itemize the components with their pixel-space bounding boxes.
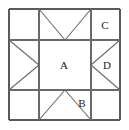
region-label-c: C (101, 19, 108, 31)
region-label-a: A (60, 59, 68, 71)
quilt-block-diagram: A B C D (0, 0, 129, 130)
quilt-block-figure: A B C D (0, 0, 129, 130)
region-label-b: B (78, 97, 85, 109)
region-label-d: D (103, 59, 111, 71)
